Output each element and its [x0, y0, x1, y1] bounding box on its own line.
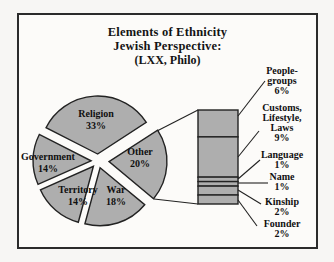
- pie-to-bar-line-bottom: [154, 199, 198, 204]
- other-breakdown-stacked-bar: [198, 110, 238, 204]
- pie-chart: [33, 96, 167, 226]
- callout-percent: 2%: [256, 207, 308, 217]
- callout-percent: 9%: [256, 133, 308, 143]
- callout-name: Customs, Lifestyle, Laws: [256, 103, 308, 133]
- bar-segment-founder: [198, 195, 238, 204]
- callout-label-language: Language1%: [256, 150, 308, 170]
- callout-name: People-groups: [256, 66, 308, 86]
- bar-segment-people-groups: [198, 110, 238, 137]
- callout-percent: 2%: [256, 229, 308, 239]
- callout-label-name: Name1%: [256, 172, 308, 192]
- leader-line-founder: [238, 200, 257, 226]
- bar-segment-customs-lifestyle-laws: [198, 137, 238, 177]
- callout-percent: 1%: [256, 160, 308, 170]
- callout-percent: 6%: [256, 86, 308, 96]
- chart-title-line-1: Elements of Ethnicity: [17, 25, 318, 39]
- pie-to-bar-line-top: [157, 110, 198, 131]
- callout-label-people-groups: People-groups6%: [256, 66, 308, 96]
- chart-title: Elements of Ethnicity Jewish Perspective…: [17, 25, 318, 67]
- chart-title-line-2: Jewish Perspective:: [17, 39, 318, 53]
- callout-label-founder: Founder2%: [256, 219, 308, 239]
- figure-bar-of-pie-chart: Elements of Ethnicity Jewish Perspective…: [0, 0, 334, 262]
- callout-label-customs-lifestyle-laws: Customs, Lifestyle, Laws9%: [256, 103, 308, 143]
- callout-label-kinship: Kinship2%: [256, 197, 308, 217]
- callout-percent: 1%: [256, 182, 308, 192]
- bar-segment-kinship: [198, 186, 238, 195]
